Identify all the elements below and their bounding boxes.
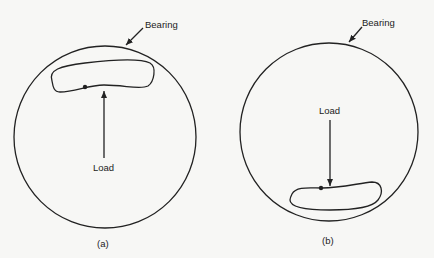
bearing-label-a: Bearing [145, 19, 178, 30]
bearing-diagram: Bearing Load (a) Bearing Load (b) [0, 0, 434, 258]
bearing-label-b: Bearing [362, 17, 395, 28]
caption-a: (a) [97, 238, 109, 249]
load-label-b: Load [319, 105, 340, 116]
bearing-circle-b [240, 43, 418, 221]
bearing-pointer-b [349, 27, 362, 42]
caption-b: (b) [322, 235, 334, 246]
journal-locus-a [51, 60, 154, 92]
bearing-pointer-a [126, 28, 143, 45]
bearing-circle-a [14, 46, 196, 228]
panel-b: Bearing Load (b) [240, 17, 418, 246]
panel-a: Bearing Load (a) [14, 19, 196, 249]
load-point-dot-a [83, 85, 87, 89]
load-point-dot-b [319, 186, 323, 190]
journal-locus-b [290, 182, 381, 210]
load-label-a: Load [93, 162, 114, 173]
